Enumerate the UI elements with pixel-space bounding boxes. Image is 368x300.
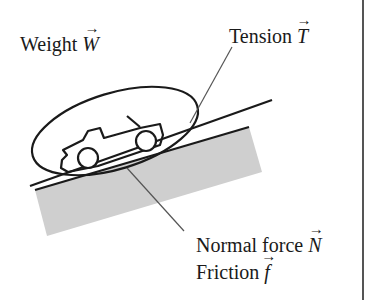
tension-label: Tension T xyxy=(229,26,308,46)
friction-label: Friction f xyxy=(196,262,270,282)
weight-label-text: Weight xyxy=(20,33,77,55)
weight-vector-symbol: W xyxy=(82,34,99,54)
friction-label-text: Friction xyxy=(196,261,259,283)
front-wheel xyxy=(136,131,156,151)
tension-leader-line xyxy=(190,47,232,123)
normal-force-label-text: Normal force xyxy=(196,234,303,256)
tension-label-text: Tension xyxy=(229,25,292,47)
weight-label: Weight W xyxy=(20,34,99,54)
rear-wheel xyxy=(78,148,98,168)
friction-vector-symbol: f xyxy=(264,262,270,282)
normal-vector-symbol: N xyxy=(308,235,321,255)
tension-vector-symbol: T xyxy=(297,26,308,46)
right-border-line xyxy=(362,0,364,300)
normal-force-label: Normal force N xyxy=(196,235,322,255)
